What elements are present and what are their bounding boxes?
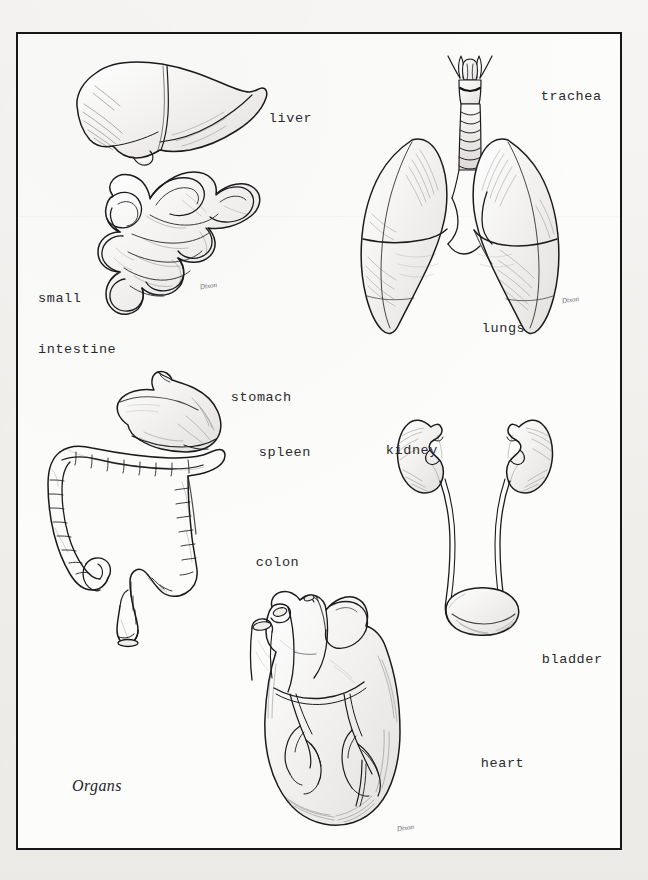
label-bladder-text: bladder (542, 652, 603, 667)
label-liver: liver (234, 96, 312, 141)
label-kidney: kidney (351, 428, 438, 473)
label-trachea: trachea (506, 74, 602, 119)
plate-frame (16, 32, 622, 850)
label-spleen: spleen (224, 430, 311, 475)
plate-caption: Organs (72, 777, 122, 795)
label-kidney-text: kidney (386, 443, 438, 458)
label-colon-text: colon (256, 555, 300, 570)
label-bladder: bladder (507, 637, 603, 682)
label-small-intestine-line2: intestine (38, 341, 116, 358)
label-heart: heart (446, 741, 524, 786)
label-colon: colon (221, 540, 299, 585)
label-heart-text: heart (481, 756, 525, 771)
label-lungs-text: lungs (482, 321, 526, 336)
label-small-intestine-line1: small (38, 290, 116, 307)
label-lungs: lungs (447, 306, 525, 351)
label-liver-text: liver (269, 111, 313, 126)
label-stomach: stomach (196, 375, 292, 420)
label-trachea-text: trachea (541, 89, 602, 104)
label-spleen-text: spleen (259, 445, 311, 460)
organs-plate: liver trachea small intestine lungs stom… (0, 0, 648, 880)
label-small-intestine: small intestine (38, 256, 116, 392)
label-stomach-text: stomach (231, 390, 292, 405)
